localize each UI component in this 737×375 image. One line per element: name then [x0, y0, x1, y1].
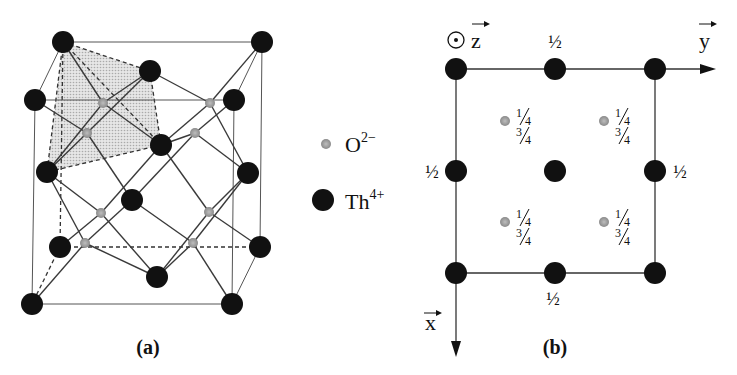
svg-text:1: 1	[615, 207, 621, 221]
svg-text:4: 4	[624, 215, 630, 229]
x-axis-arrow-icon	[451, 341, 461, 357]
height-label-right: ½	[673, 162, 687, 182]
th-legend-icon	[312, 189, 334, 211]
svg-text:4: 4	[525, 215, 531, 229]
legend-o-label: O2−	[345, 130, 376, 157]
panel-b-projection: z y x ½ ½ ½ ½ 14 34 14 34 14 34	[424, 21, 717, 359]
svg-text:4: 4	[525, 133, 531, 147]
legend: O2− Th4+	[312, 130, 384, 214]
o-site: 14 34	[599, 207, 630, 248]
figure: (a) O2− Th4+ z y x ½ ½ ½	[0, 0, 737, 375]
height-label-left: ½	[425, 162, 439, 182]
svg-text:1: 1	[516, 207, 522, 221]
svg-text:4: 4	[525, 114, 531, 128]
y-vector-arrow-icon	[711, 21, 717, 27]
svg-text:1: 1	[615, 106, 621, 120]
caption-b: (b)	[543, 336, 567, 359]
caption-a: (a)	[136, 336, 159, 359]
x-axis-label: x	[425, 310, 436, 335]
svg-text:4: 4	[624, 234, 630, 248]
height-label-top: ½	[548, 32, 562, 52]
z-vector-arrow-icon	[484, 21, 490, 27]
svg-text:4: 4	[624, 133, 630, 147]
height-label-bottom: ½	[546, 289, 560, 309]
y-axis-arrow-icon	[700, 64, 716, 74]
o-legend-icon	[321, 139, 331, 149]
svg-text:1: 1	[516, 106, 522, 120]
o-sites: 14 34 14 34 14 34 14 34	[500, 106, 630, 248]
o-site: 14 34	[599, 106, 630, 147]
projection-frame	[456, 69, 706, 348]
o-site: 14 34	[500, 207, 531, 248]
y-axis-label: y	[699, 28, 710, 53]
z-dot	[454, 38, 458, 42]
z-axis-label: z	[471, 28, 481, 53]
svg-text:3: 3	[516, 125, 522, 139]
legend-th-label: Th4+	[345, 187, 384, 214]
x-vector-arrow-icon	[436, 310, 442, 316]
svg-text:3: 3	[615, 226, 621, 240]
panel-a-unit-cell: (a)	[21, 31, 273, 359]
th-sites	[445, 58, 666, 284]
o-site: 14 34	[500, 106, 531, 147]
svg-text:4: 4	[525, 234, 531, 248]
svg-text:3: 3	[516, 226, 522, 240]
svg-text:4: 4	[624, 114, 630, 128]
svg-text:3: 3	[615, 125, 621, 139]
